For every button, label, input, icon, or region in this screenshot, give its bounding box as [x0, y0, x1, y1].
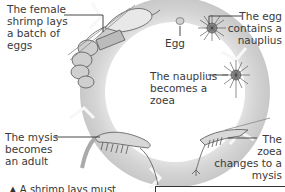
figure-caption: ▲ A shrimp lays must [9, 184, 116, 192]
label-line: The mysis [5, 131, 58, 143]
egg-icon [176, 18, 184, 25]
label-zoea-changes-mysis: The zoea changes to a mysis [214, 133, 282, 181]
label-female-shrimp: The female shrimp lays a batch of eggs [7, 3, 68, 51]
label-line: zoea [150, 94, 217, 106]
label-line: The [214, 133, 282, 145]
label-line: The female [7, 3, 68, 15]
label-line: Egg [165, 37, 185, 49]
label-nauplius-becomes-zoea: The nauplius becomes a zoea [150, 70, 217, 106]
caption-box-border [155, 186, 285, 192]
label-line: eggs [7, 39, 68, 51]
label-line: The egg [228, 10, 282, 22]
label-line: shrimp lays [7, 15, 68, 27]
label-line: nauplius [228, 34, 282, 46]
label-line: The nauplius [150, 70, 217, 82]
label-line: mysis [214, 169, 282, 181]
label-line: a batch of [7, 27, 68, 39]
label-egg: Egg [165, 37, 185, 49]
label-line: an adult [5, 155, 58, 167]
label-egg-contains-nauplius: The egg contains a nauplius [228, 10, 282, 46]
shrimp-life-cycle-diagram: The female shrimp lays a batch of eggs E… [0, 0, 285, 192]
label-line: becomes a [150, 82, 217, 94]
label-line: zoea [214, 145, 282, 157]
label-line: changes to a [214, 157, 282, 169]
label-line: contains a [228, 22, 282, 34]
arrow-icon [90, 3, 101, 28]
label-mysis-becomes-adult: The mysis becomes an adult [5, 131, 58, 167]
label-line: becomes [5, 143, 58, 155]
